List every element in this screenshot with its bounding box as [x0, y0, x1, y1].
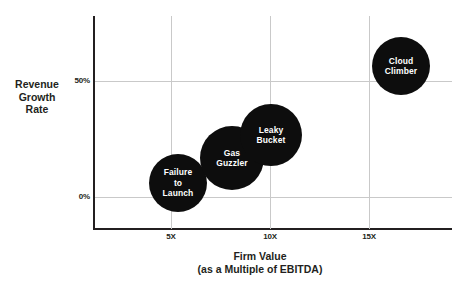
bubble-chart: 50% 0% 5X 10X 15X Revenue Growth Rate Fi… — [0, 0, 461, 288]
y-axis-title-line-2: Growth — [2, 91, 72, 104]
gridline-y-0 — [95, 197, 452, 198]
x-axis-title-line-1: Firm Value — [110, 250, 410, 263]
bubble-failure-to-launch[interactable]: Failure to Launch — [149, 154, 207, 212]
bubble-cloud-climber[interactable]: Cloud Climber — [372, 37, 430, 95]
y-axis-title-line-1: Revenue — [2, 78, 72, 91]
y-tick-label-0: 0% — [60, 192, 90, 201]
y-axis-title-line-3: Rate — [2, 103, 72, 116]
bubble-label: Failure to Launch — [163, 167, 194, 199]
bubble-leaky-bucket[interactable]: Leaky Bucket — [240, 104, 302, 166]
gridline-x-15 — [369, 16, 370, 229]
x-axis-title: Firm Value (as a Multiple of EBITDA) — [110, 250, 410, 276]
y-axis-title: Revenue Growth Rate — [2, 78, 72, 116]
x-axis-title-line-2: (as a Multiple of EBITDA) — [110, 263, 410, 276]
x-tick-label-5x: 5X — [151, 232, 191, 241]
bubble-label: Cloud Climber — [385, 56, 417, 77]
bubble-label: Gas Guzzler — [216, 148, 247, 169]
x-tick-label-15x: 15X — [349, 232, 389, 241]
bubble-label: Leaky Bucket — [257, 125, 286, 146]
x-tick-label-10x: 10X — [250, 232, 290, 241]
